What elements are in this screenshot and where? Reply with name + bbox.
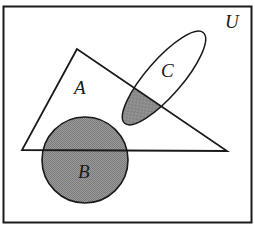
venn-diagram: U A C B [0, 0, 255, 238]
label-set-c: C [161, 60, 174, 81]
label-universe: U [225, 11, 240, 32]
label-set-b: B [78, 161, 90, 182]
label-set-a: A [72, 77, 86, 98]
